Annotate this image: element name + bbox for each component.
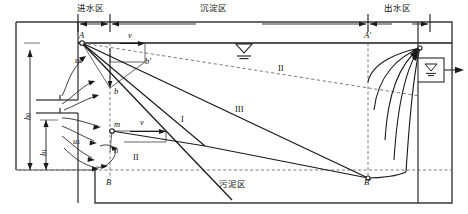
trajectory-label-II-lower: II xyxy=(133,153,139,162)
velocity-label-u0: u0 xyxy=(75,56,82,65)
depth-label-h1: h1 xyxy=(39,145,48,159)
trajectory-line-I xyxy=(82,43,232,200)
velocity-label-v-middle: v xyxy=(140,118,144,127)
water-level-icon xyxy=(236,44,252,59)
outlet-rising-streamlines xyxy=(368,48,420,172)
velocity-label-u1: u1 xyxy=(73,137,80,146)
velocity-resultant-middle xyxy=(112,131,205,146)
trajectory-line-m-to-Bprime xyxy=(205,146,368,178)
zone-label-inlet: 进水区 xyxy=(77,4,104,13)
figure-canvas: 进水区 沉淀区 出水区 污泥区 A A' B B' b b' m n u0 u1… xyxy=(0,0,468,214)
tank-outline xyxy=(16,22,452,203)
zone-label-sedimentation: 沉淀区 xyxy=(200,4,227,13)
trajectory-label-I: I xyxy=(181,115,184,124)
inlet-flow-arrowheads-lower xyxy=(88,125,102,172)
depth-label-h0-sub: 0 xyxy=(25,113,31,116)
outlet-bottom-curve xyxy=(368,172,406,178)
point-label-B: B xyxy=(106,178,111,187)
depth-label-h0-base: h xyxy=(22,116,32,120)
point-label-A-prime: A' xyxy=(364,31,371,40)
trajectory-label-III: III xyxy=(235,105,244,114)
trajectory-line-III xyxy=(82,43,368,178)
velocity-label-v-top: v xyxy=(128,31,132,40)
depth-label-h1-sub: 1 xyxy=(41,149,47,152)
zone-label-sludge: 污泥区 xyxy=(219,180,246,189)
point-label-b: b xyxy=(114,87,118,96)
inlet-pipe xyxy=(36,100,60,113)
zone-label-outlet: 出水区 xyxy=(384,4,411,13)
velocity-label-u0-sub: 0 xyxy=(79,58,82,64)
point-label-b-prime: b' xyxy=(145,57,151,66)
point-label-B-prime: B' xyxy=(364,178,371,187)
point-label-m: m xyxy=(114,120,120,129)
trajectory-dashed-II-upper xyxy=(82,43,420,96)
depth-label-h0: h0 xyxy=(23,109,32,123)
velocity-v-top-arrowhead xyxy=(138,41,145,46)
trajectory-label-II-upper: II xyxy=(278,64,284,73)
depth-label-h1-base: h xyxy=(38,152,48,156)
point-label-A: A xyxy=(79,31,84,40)
inlet-channel-structure xyxy=(60,22,78,203)
velocity-label-u1-sub: 1 xyxy=(77,139,80,145)
outlet-weir-box xyxy=(418,58,444,82)
velocity-parallelogram-middle xyxy=(110,131,166,152)
outlet-flow-arrowhead xyxy=(455,67,464,73)
point-label-n: n xyxy=(114,146,118,155)
